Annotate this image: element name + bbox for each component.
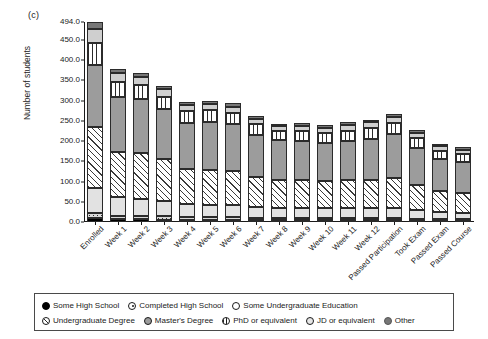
bar-segment (179, 123, 195, 170)
bar-segment (340, 218, 356, 220)
bar-segment (179, 102, 195, 105)
bar-segment (409, 148, 425, 186)
bar-segment (432, 159, 448, 191)
bar-segment (271, 126, 287, 131)
bar-segment (202, 122, 218, 170)
legend-label: Completed High School (139, 301, 223, 310)
stacked-bar (432, 144, 448, 222)
bar-segment (432, 151, 448, 160)
x-tick-mark (164, 222, 165, 225)
legend-label: Some High School (53, 301, 119, 310)
stacked-bar (340, 122, 356, 222)
y-tick-label: 450.0 (60, 36, 80, 44)
bar-segment (179, 169, 195, 204)
bar-segment (317, 128, 333, 133)
bar-segment (110, 152, 126, 197)
y-tick-label: 350.0 (60, 76, 80, 84)
bar-segment (386, 123, 402, 134)
bar-segment (432, 144, 448, 146)
legend-item-masters-degree: Master's Degree (144, 316, 213, 325)
x-tick-mark (394, 222, 395, 225)
legend-label: Other (395, 316, 415, 325)
bar-segment (409, 185, 425, 210)
bar-segment (156, 97, 172, 110)
bar-segment (432, 146, 448, 150)
bar-segment (386, 178, 402, 208)
bar-segment (271, 180, 287, 208)
stacked-bar (248, 116, 264, 222)
legend: Some High SchoolCompleted High SchoolSom… (34, 293, 454, 331)
legend-item-phd-or-equivalent: PhD or equivalent (222, 316, 297, 325)
bar-segment (225, 171, 241, 205)
bar-segment (294, 141, 310, 180)
bar-segment (248, 218, 264, 220)
bar-segment (317, 143, 333, 181)
x-tick-mark (417, 222, 418, 225)
stacked-bar (87, 22, 103, 222)
bar-segment (455, 147, 471, 149)
x-tick-mark (325, 222, 326, 225)
bar-segment (225, 107, 241, 113)
bar-segment (87, 213, 103, 218)
stacked-bar (386, 114, 402, 223)
x-tick-mark (187, 222, 188, 225)
bar-segment (294, 123, 310, 126)
bar-segment (248, 135, 264, 178)
stacked-bar (225, 103, 241, 222)
y-tick-label: 494.0 (60, 18, 80, 26)
bar-segment (110, 216, 126, 220)
bar-segment (202, 205, 218, 218)
panel-label: (c) (28, 10, 39, 20)
bar-segment (202, 217, 218, 220)
bar-segment (87, 188, 103, 213)
dotted-circle-icon (128, 302, 136, 310)
bar-segment (133, 153, 149, 199)
x-tick-mark (302, 222, 303, 225)
bar-segment (294, 218, 310, 220)
x-tick-label: Week 8 (265, 225, 290, 250)
bar-segment (225, 113, 241, 125)
bar-segment (340, 131, 356, 141)
bar-segment (248, 177, 264, 207)
bar-segment (455, 154, 471, 162)
x-tick-mark (348, 222, 349, 225)
bar-segment (248, 124, 264, 135)
bar-segment (156, 86, 172, 90)
bar-segment (179, 217, 195, 220)
bar-segment (432, 191, 448, 212)
bar-segment (409, 133, 425, 138)
bar-segment (271, 140, 287, 180)
y-tick-label: 100.0 (60, 178, 80, 186)
dark-gray-circle-icon (384, 317, 392, 325)
bar-segment (409, 130, 425, 133)
y-axis-label: Number of students (22, 28, 32, 138)
bar-segment (363, 139, 379, 180)
x-tick-label: Week 1 (104, 225, 129, 250)
bar-segment (133, 85, 149, 99)
bar-segment (317, 125, 333, 128)
stacked-bar (179, 102, 195, 222)
bar-segment (294, 208, 310, 218)
x-tick-label: Week 3 (150, 225, 175, 250)
y-tick-mark (81, 181, 84, 182)
bar-segment (340, 180, 356, 208)
bar-segment (110, 197, 126, 215)
x-tick-label: Week 4 (173, 225, 198, 250)
bar-segment (363, 218, 379, 220)
x-tick-label: Week 6 (219, 225, 244, 250)
bar-segment (87, 29, 103, 43)
stacked-bar (294, 123, 310, 222)
y-tick-mark (81, 39, 84, 40)
bar-segment (409, 138, 425, 148)
bar-segment (363, 128, 379, 139)
x-tick-mark (371, 222, 372, 225)
bar-segment (271, 218, 287, 220)
bar-segment (294, 131, 310, 141)
stacked-bar (317, 125, 333, 222)
bar-segment (386, 117, 402, 123)
x-tick-label: Week 2 (127, 225, 152, 250)
stacked-bar (455, 147, 471, 222)
x-tick-label: Week 5 (196, 225, 221, 250)
plot-area: 0.050.0100.0150.0200.0250.0300.0350.0400… (84, 22, 474, 222)
stacked-bar (409, 130, 425, 222)
